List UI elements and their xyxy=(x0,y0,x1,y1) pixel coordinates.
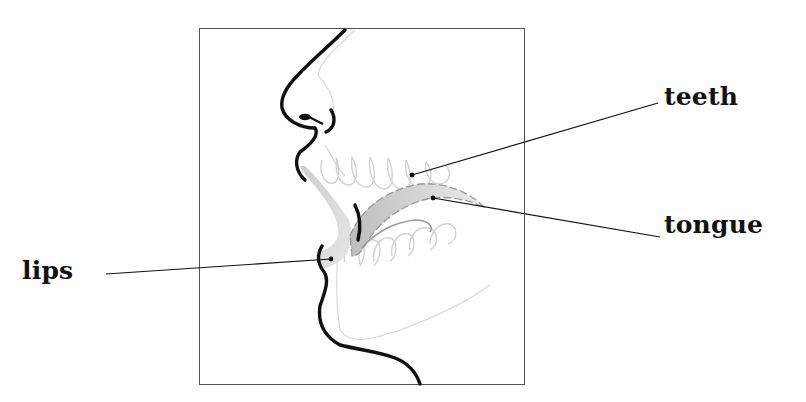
label-lips: lips xyxy=(22,258,73,283)
label-teeth: teeth xyxy=(664,84,738,109)
leader-line-tongue xyxy=(431,196,660,237)
leader-line-lips xyxy=(106,257,333,274)
faint-anatomy-lines xyxy=(318,30,490,339)
label-tongue: tongue xyxy=(664,212,763,237)
mouth-diagram xyxy=(0,0,806,402)
diagram-frame xyxy=(200,29,525,385)
nostril xyxy=(299,114,323,124)
